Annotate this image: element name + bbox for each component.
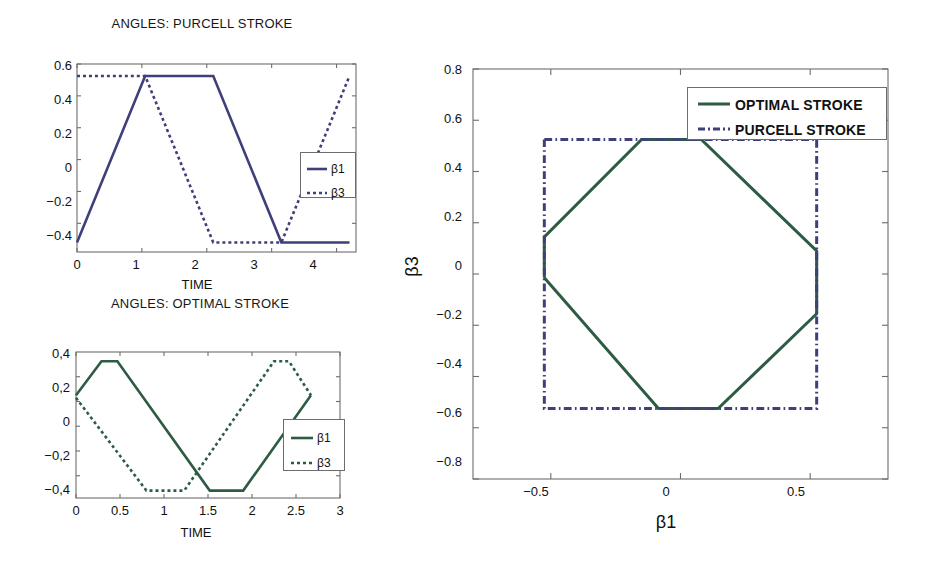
ytick-purcell-3: 0: [28, 160, 72, 175]
xtick-purcell-3: 3: [238, 257, 270, 272]
legend-swatch-dotted-icon: [290, 454, 314, 472]
ytick-optimal-3: −0,2: [26, 448, 70, 463]
ytick-optimal-0: 0,4: [26, 346, 70, 361]
legend-swatch-dotted-icon: [306, 184, 328, 202]
chart-angles-purcell-stroke: ANGLES: PURCELL STROKE 0.6 0.4 0.2 0 −0.…: [18, 14, 378, 294]
xtick-optimal-5: 2.5: [280, 503, 312, 518]
yaxis-label-phase: β3: [402, 247, 423, 287]
ytick-purcell-5: −0.4: [28, 228, 72, 243]
xtick-optimal-0: 0: [60, 503, 92, 518]
xtick-optimal-1: 0.5: [104, 503, 136, 518]
xtick-optimal-6: 3: [324, 503, 356, 518]
legend-item-optimal-stroke: OPTIMAL STROKE: [697, 96, 886, 114]
ytick-phase-0: 0.8: [406, 62, 462, 77]
ytick-phase-8: −0.8: [406, 454, 462, 469]
ytick-purcell-1: 0.4: [28, 92, 72, 107]
ytick-phase-6: −0.4: [406, 356, 462, 371]
chart-phase-plane-beta1-beta3: 0.8 0.6 0.4 0.2 0 −0.2 −0.4 −0.6 −0.8 −0…: [396, 14, 921, 559]
xtick-phase-2: 0.5: [768, 484, 824, 499]
ytick-purcell-0: 0.6: [28, 58, 72, 73]
chart-angles-optimal-stroke: ANGLES: OPTIMAL STROKE 0,4 0,2 0 −0,2 −0…: [10, 294, 378, 560]
legend-label-beta3: β3: [317, 457, 331, 469]
ytick-purcell-2: 0.2: [28, 126, 72, 141]
xtick-phase-0: −0.5: [508, 484, 564, 499]
xaxis-label-optimal: TIME: [76, 525, 316, 540]
xtick-purcell-0: 0: [61, 257, 93, 272]
legend-label-purcell-stroke: PURCELL STROKE: [735, 123, 866, 137]
xaxis-label-phase: β1: [586, 512, 746, 533]
xtick-purcell-2: 2: [179, 257, 211, 272]
ytick-optimal-2: 0: [26, 414, 70, 429]
legend-phase: OPTIMAL STROKE PURCELL STROKE: [687, 87, 887, 140]
ytick-phase-1: 0.6: [406, 111, 462, 126]
legend-item-purcell-stroke: PURCELL STROKE: [697, 121, 886, 139]
xtick-phase-1: 0: [638, 484, 694, 499]
legend-label-beta1: β1: [331, 163, 345, 175]
legend-swatch-solid-icon: [697, 96, 731, 114]
legend-optimal: β1 β3: [283, 419, 345, 471]
legend-label-beta1: β1: [317, 432, 331, 444]
legend-item-beta3: β3: [306, 184, 355, 202]
legend-label-optimal-stroke: OPTIMAL STROKE: [735, 98, 863, 112]
xtick-optimal-2: 1: [148, 503, 180, 518]
legend-item-beta1: β1: [290, 429, 344, 447]
legend-swatch-solid-icon: [306, 160, 328, 178]
legend-item-beta3: β3: [290, 454, 344, 472]
legend-purcell: β1 β3: [300, 152, 356, 198]
xtick-optimal-4: 2: [236, 503, 268, 518]
legend-swatch-solid-icon: [290, 429, 314, 447]
legend-swatch-dashdot-icon: [697, 121, 731, 139]
xtick-optimal-3: 1.5: [192, 503, 224, 518]
xaxis-label-purcell: TIME: [77, 277, 317, 292]
xtick-purcell-4: 4: [297, 257, 329, 272]
ytick-optimal-4: −0,4: [26, 482, 70, 497]
ytick-phase-3: 0.2: [406, 209, 462, 224]
xtick-purcell-1: 1: [120, 257, 152, 272]
ytick-phase-5: −0.2: [406, 307, 462, 322]
ytick-phase-7: −0.6: [406, 405, 462, 420]
legend-item-beta1: β1: [306, 160, 355, 178]
ytick-purcell-4: −0.2: [28, 194, 72, 209]
figure-three-panel-stroke-analysis: ANGLES: PURCELL STROKE 0.6 0.4 0.2 0 −0.…: [0, 0, 925, 566]
legend-label-beta3: β3: [331, 187, 345, 199]
ytick-phase-2: 0.4: [406, 160, 462, 175]
ytick-optimal-1: 0,2: [26, 380, 70, 395]
